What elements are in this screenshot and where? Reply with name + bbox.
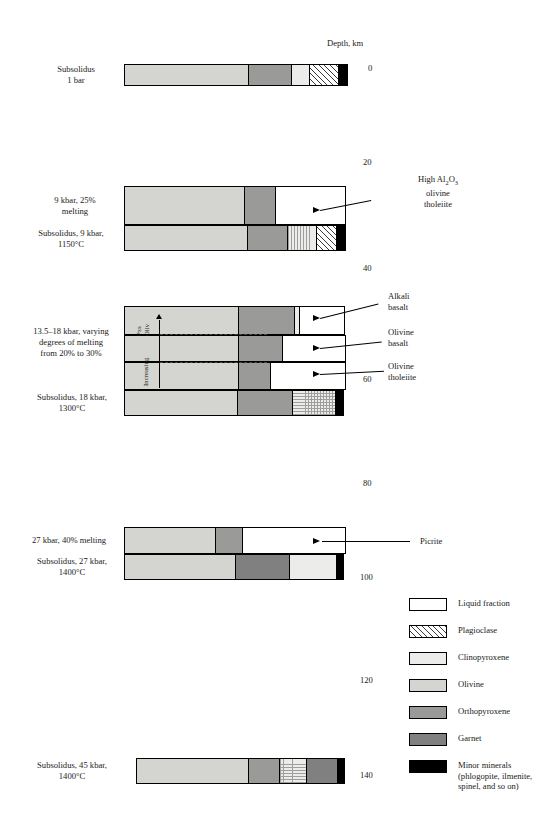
segment-olivine <box>125 528 215 553</box>
row-label-line-1: Subsolidus, 9 kbar, <box>20 228 122 239</box>
legend-item-minor-minerals: Minor minerals (phlogopite, ilmenite, sp… <box>409 760 532 792</box>
segment-orthopyroxene <box>248 65 291 85</box>
row-label-9kbar-25pct: 9 kbar, 25% melting <box>28 195 122 217</box>
depth-tick-100: 100 <box>360 572 373 583</box>
segment-orthopyroxene <box>215 528 242 553</box>
row-label-subsolidus-45kbar: Subsolidus, 45 kbar, 1400°C <box>20 760 124 782</box>
segment-clinopyroxene <box>292 391 335 415</box>
callout-line-2: tholeiite <box>388 372 478 383</box>
segment-orthopyroxene <box>237 391 292 415</box>
segment-clinopyroxene <box>291 65 309 85</box>
callout-arrow-high-al2o3 <box>313 207 320 213</box>
row-label-27kbar-40pct: 27 kbar, 40% melting <box>14 535 124 546</box>
depth-tick-20: 20 <box>363 157 372 168</box>
callout-arrow-olivine-basalt <box>313 345 320 351</box>
callout-olivine-tholeiite: Olivine tholeiite <box>388 361 478 383</box>
callout-line-1: High Al2O3 <box>378 174 498 188</box>
dashed-guide-lower <box>160 362 267 363</box>
annotation-label-increasing: Increasing <box>142 358 149 386</box>
segment-minor-minerals <box>336 226 345 250</box>
depth-tick-120: 120 <box>360 675 373 686</box>
legend-item-olivine: Olivine <box>409 679 484 692</box>
depth-tick-0: 0 <box>368 63 372 74</box>
legend-swatch-minor-minerals <box>409 760 447 773</box>
callout-line-2: olivine <box>378 188 498 199</box>
legend-item-orthopyroxene: Orthopyroxene <box>409 706 510 719</box>
segment-liquid-fraction <box>275 187 345 224</box>
segment-orthopyroxene <box>235 555 289 579</box>
row-label-subsolidus-18kbar: Subsolidus, 18 kbar, 1300°C <box>20 392 124 414</box>
legend-label-clinopyroxene: Clinopyroxene <box>458 652 509 663</box>
segment-olivine <box>125 391 237 415</box>
row-label-subsolidus-27kbar: Subsolidus, 27 kbar, 1400°C <box>20 556 124 578</box>
segment-plagioclase <box>309 65 338 85</box>
row-label-line-1: 27 kbar, 40% melting <box>14 535 124 546</box>
phase-diagram-figure: Depth, km 0 20 40 60 80 100 120 140 Subs… <box>0 0 547 835</box>
row-label-line-2: degrees of melting <box>18 337 124 348</box>
depth-axis-header: Depth, km <box>327 38 363 49</box>
callout-line-1: Olivine <box>388 361 478 372</box>
callout-line-3: tholeiite <box>378 199 498 210</box>
segment-orthopyroxene <box>248 759 279 783</box>
legend-swatch-garnet <box>409 733 447 746</box>
segment-garnet <box>306 759 337 783</box>
row-label-subsolidus-1bar: Subsolidus 1 bar <box>32 64 120 86</box>
segment-liquid-fraction <box>299 307 344 334</box>
annotation-label-oliv: Oliv <box>143 324 150 336</box>
bar-subsolidus-18kbar <box>124 390 344 416</box>
callout-line-2: basalt <box>388 338 478 349</box>
row-label-line-2: 1150°C <box>20 239 122 250</box>
bar-subsolidus-45kbar <box>136 758 345 784</box>
legend-item-liquid-fraction: Liquid fraction <box>409 598 510 611</box>
segment-orthopyroxene <box>238 363 270 389</box>
row-label-line-1: Subsolidus, 18 kbar, <box>20 392 124 403</box>
legend-swatch-olivine <box>409 679 447 692</box>
row-label-line-2: melting <box>28 206 122 217</box>
dashed-guide-upper <box>160 334 267 335</box>
callout-line-2: basalt <box>388 302 478 313</box>
legend-label-minor-minerals-sub2: spinel, and so on) <box>458 781 532 792</box>
row-label-line-1: Subsolidus, 27 kbar, <box>20 556 124 567</box>
row-label-subsolidus-9kbar: Subsolidus, 9 kbar, 1150°C <box>20 228 122 250</box>
row-label-13-18kbar: 13.5–18 kbar, varying degrees of melting… <box>18 326 124 359</box>
segment-minor-minerals <box>338 65 347 85</box>
legend-label-orthopyroxene: Orthopyroxene <box>458 706 510 717</box>
increasing-pxs-oliv-annotation: Increasing Pxs Oliv <box>131 306 191 390</box>
segment-clinopyroxene <box>287 226 316 250</box>
row-label-line-1: Subsolidus, 45 kbar, <box>20 760 124 771</box>
row-label-line-2: 1400°C <box>20 567 124 578</box>
depth-tick-80: 80 <box>363 478 372 489</box>
legend-item-garnet: Garnet <box>409 733 481 746</box>
segment-olivine <box>137 759 248 783</box>
up-arrow-shaft <box>159 320 160 388</box>
segment-olivine <box>125 555 235 579</box>
legend-swatch-orthopyroxene <box>409 706 447 719</box>
segment-orthopyroxene <box>238 336 282 361</box>
segment-clinopyroxene <box>279 759 306 783</box>
depth-tick-40: 40 <box>363 263 372 274</box>
row-label-line-1: Subsolidus <box>32 64 120 75</box>
row-label-line-2: 1 bar <box>32 75 120 86</box>
legend: Liquid fraction Plagioclase Clinopyroxen… <box>409 598 544 798</box>
bar-subsolidus-1bar <box>124 64 348 86</box>
row-label-line-1: 9 kbar, 25% <box>28 195 122 206</box>
callout-arrow-alkali-basalt <box>313 315 320 321</box>
segment-plagioclase <box>316 226 336 250</box>
annotation-label-pxs: Pxs <box>135 326 142 336</box>
segment-orthopyroxene <box>244 187 275 224</box>
legend-label-minor-minerals-block: Minor minerals (phlogopite, ilmenite, sp… <box>458 760 532 792</box>
legend-item-plagioclase: Plagioclase <box>409 625 497 638</box>
legend-label-garnet: Garnet <box>458 733 481 744</box>
segment-minor-minerals <box>335 391 343 415</box>
segment-olivine <box>125 65 248 85</box>
callout-picrite: Picrite <box>420 536 500 547</box>
segment-orthopyroxene <box>238 307 294 334</box>
legend-item-clinopyroxene: Clinopyroxene <box>409 652 509 665</box>
up-arrow-head-icon <box>156 314 162 319</box>
legend-swatch-clinopyroxene <box>409 652 447 665</box>
callout-line-1: Alkali <box>388 291 478 302</box>
callout-line-1: Olivine <box>388 327 478 338</box>
legend-swatch-liquid-fraction <box>409 598 447 611</box>
segment-minor-minerals <box>336 555 343 579</box>
legend-label-plagioclase: Plagioclase <box>458 625 497 636</box>
